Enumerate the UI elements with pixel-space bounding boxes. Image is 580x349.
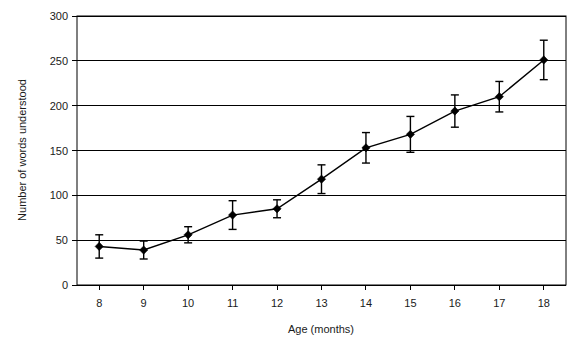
x-tick-label-11: 11 [227,297,238,309]
y-tick-label-100: 100 [50,189,68,201]
x-axis-title: Age (months) [288,323,354,335]
x-tick-label-15: 15 [404,297,416,309]
y-tick-label-0: 0 [62,279,68,291]
x-tick-label-14: 14 [360,297,372,309]
x-tick-label-9: 9 [141,297,147,309]
line-chart-with-error-bars: 050100150200250300 89101112131415161718 … [0,0,580,349]
x-tick-label-12: 12 [271,297,283,309]
x-axis: 89101112131415161718 [96,285,550,309]
chart-container: 050100150200250300 89101112131415161718 … [0,0,580,349]
y-tick-label-250: 250 [50,55,68,67]
y-tick-label-150: 150 [50,145,68,157]
y-tick-label-50: 50 [56,234,68,246]
y-axis-title: Number of words understood [16,79,28,221]
x-tick-label-8: 8 [96,297,102,309]
x-tick-label-17: 17 [493,297,505,309]
y-axis: 050100150200250300 [50,10,77,291]
x-tick-label-13: 13 [315,297,327,309]
x-tick-label-18: 18 [538,297,550,309]
x-tick-label-16: 16 [449,297,461,309]
x-tick-label-10: 10 [182,297,194,309]
y-tick-label-300: 300 [50,10,68,22]
y-tick-label-200: 200 [50,100,68,112]
